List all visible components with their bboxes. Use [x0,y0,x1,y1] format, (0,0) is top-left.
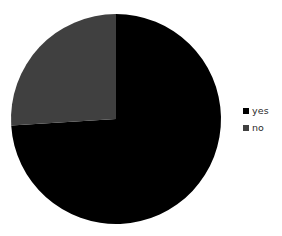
chart-legend: yes no [243,103,282,137]
legend-swatch-yes-square-marker [243,108,249,114]
legend-item-yes[interactable]: yes [243,103,282,118]
legend-label-yes: yes [252,106,269,116]
pie-chart-canvas [0,0,282,236]
pie-slice-no[interactable] [11,14,116,126]
pie-slice-group [11,14,221,224]
pie-chart: yes no [0,0,282,236]
legend-item-no[interactable]: no [243,120,282,135]
legend-label-no: no [252,123,264,133]
legend-swatch-no-square-marker [243,125,249,131]
